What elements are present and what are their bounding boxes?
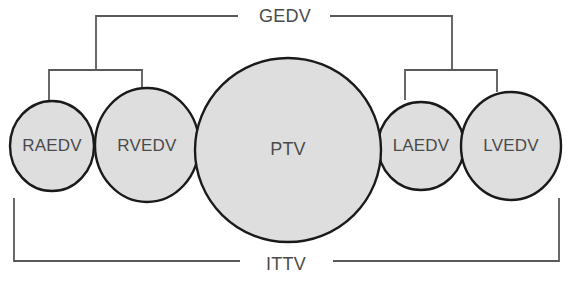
compartment-label-ptv: PTV [270,139,306,159]
compartment-label-laedv: LAEDV [393,136,450,155]
gedv-bracket-left-line [96,16,238,70]
compartment-label-rvedv: RVEDV [117,136,177,155]
ittv-bracket-right-line [333,198,559,261]
gedv-bracket-right-line [330,16,452,70]
diagram-canvas: RAEDV RVEDV PTV LAEDV LVEDV GEDV ITTV [0,0,572,287]
compartment-label-lvedv: LVEDV [483,136,539,155]
left-heart-bracket-line [405,70,497,100]
cardiac-volume-diagram: RAEDV RVEDV PTV LAEDV LVEDV GEDV ITTV [0,0,572,287]
compartment-label-raedv: RAEDV [22,136,82,155]
bracket-label-ittv: ITTV [266,254,306,274]
bracket-label-gedv: GEDV [259,6,311,26]
ittv-bracket-left-line [14,198,240,261]
